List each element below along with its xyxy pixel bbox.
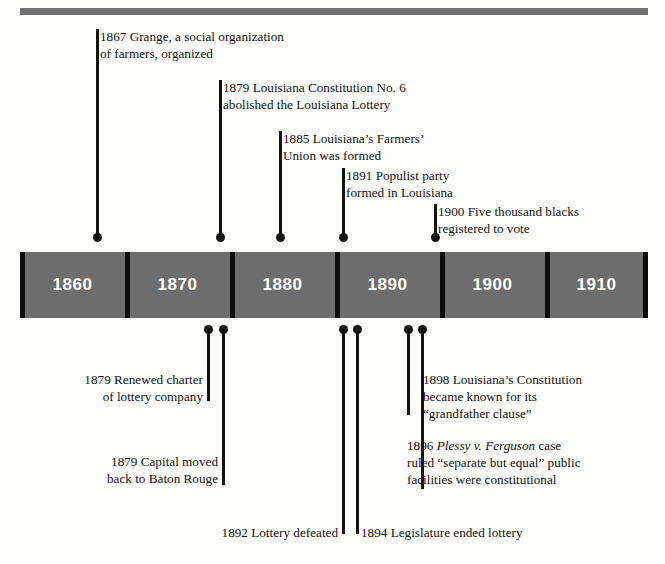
connector-1885	[279, 131, 282, 237]
annotation-1892-lottery-defeated: 1892 Lottery defeated	[185, 524, 338, 541]
annotation-1891: 1891 Populist party formed in Louisiana	[346, 167, 566, 201]
annotation-1879-capital-moved: 1879 Capital moved back to Baton Rouge	[45, 453, 218, 487]
decade-divider-left-end	[20, 252, 25, 318]
decade-cell-1870: 1870	[125, 252, 230, 318]
annotation-1896-plessy-v-ferguson: 1896 Plessy v. Ferguson caseruled “separ…	[407, 437, 652, 488]
timeline-figure: 1867 Grange, a social organization of fa…	[0, 0, 665, 564]
annotation-1879-constitution: 1879 Louisiana Constitution No. 6 abolis…	[223, 79, 473, 113]
dot-1867	[93, 233, 102, 242]
annotation-1885: 1885 Louisiana’s Farmers’ Union was form…	[283, 130, 513, 164]
annotation-1898-constitution: 1898 Louisiana’s Constitution became kno…	[423, 371, 653, 422]
connector-1867	[96, 29, 99, 237]
decade-divider-right-end	[643, 252, 648, 318]
annotation-1900: 1900 Five thousand blacks registered to …	[438, 203, 658, 237]
dot-1900	[431, 233, 440, 242]
connector-1879-capital-moved	[222, 329, 225, 485]
timeline-bar: 1860 1870 1880 1890 1900 1910	[20, 252, 648, 318]
decade-cell-1890: 1890	[335, 252, 440, 318]
annotation-1867: 1867 Grange, a social organization of fa…	[100, 28, 340, 62]
plessy-rest: ruled “separate but equal” public facili…	[407, 455, 581, 487]
plessy-line1-prefix: 1896	[407, 438, 437, 453]
plessy-line1-suffix: case	[535, 438, 561, 453]
connector-1879-renewed-charter	[207, 329, 210, 401]
dot-1885	[276, 233, 285, 242]
plessy-case-name: Plessy v. Ferguson	[437, 438, 536, 453]
page-header-rule	[20, 8, 648, 15]
dot-1879-constitution	[216, 233, 225, 242]
decade-cell-1900: 1900	[440, 252, 545, 318]
connector-1892-lottery-defeated	[342, 329, 345, 534]
annotation-1894-legislature-ended-lottery: 1894 Legislature ended lottery	[361, 524, 601, 541]
decade-cell-1860: 1860	[20, 252, 125, 318]
decade-cell-1910: 1910	[545, 252, 648, 318]
connector-1898-constitution	[407, 329, 410, 415]
connector-1894-legislature-ended-lottery	[356, 329, 359, 534]
connector-1879-constitution	[219, 80, 222, 237]
dot-1891	[339, 233, 348, 242]
connector-1891	[342, 168, 345, 237]
decade-cell-1880: 1880	[230, 252, 335, 318]
annotation-1879-renewed-charter: 1879 Renewed charter of lottery company	[25, 371, 203, 405]
